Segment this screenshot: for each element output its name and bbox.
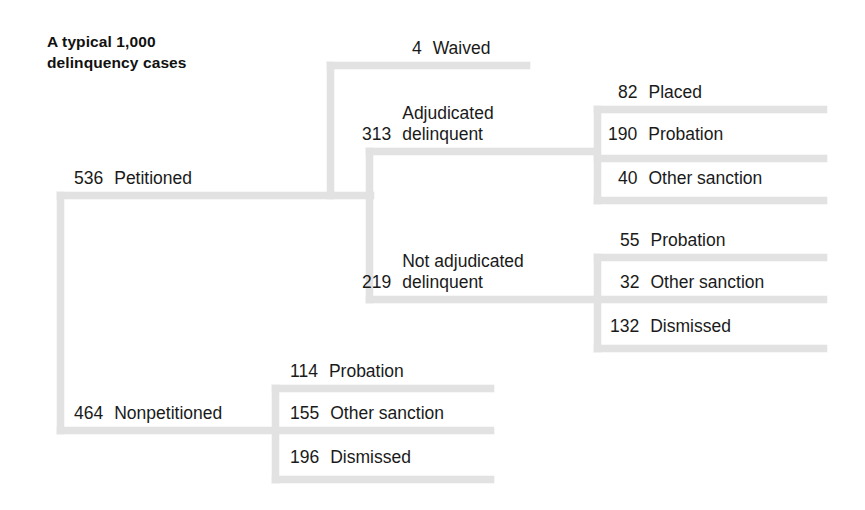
node-nonpetitioned-label: Nonpetitioned: [114, 403, 222, 424]
connector-non-other-underline: [272, 427, 494, 434]
connector-nadj-probation-underline: [594, 254, 827, 261]
connector-adjudicated-underline: [366, 148, 597, 155]
node-petitioned-value: 536: [74, 168, 103, 189]
node-non-probation-value: 114: [290, 361, 318, 382]
node-not-adjudicated-label: Not adjudicated delinquent: [402, 251, 524, 293]
node-nonpetitioned-value: 464: [74, 403, 103, 424]
node-adj-placed-value: 82: [618, 82, 637, 103]
node-non-dismissed-label: Dismissed: [330, 447, 411, 468]
connector-placed-underline: [594, 106, 827, 113]
delinquency-case-flow-diagram: A typical 1,000 delinquency cases 536 Pe…: [0, 0, 865, 510]
node-nadj-other-sanction: 32 Other sanction: [620, 272, 764, 293]
connector-non-probation-underline: [272, 385, 494, 392]
connector-adj-probation-underline: [594, 155, 827, 162]
node-not-adjudicated-value: 219: [362, 272, 391, 293]
node-nadj-other-label: Other sanction: [650, 272, 764, 293]
connector-trunk-vertical: [57, 192, 64, 434]
node-petitioned-label: Petitioned: [114, 168, 192, 189]
node-non-dismissed: 196 Dismissed: [290, 447, 411, 468]
node-non-probation-label: Probation: [329, 361, 404, 382]
connector-nadj-other-underline: [594, 296, 827, 303]
node-nadj-dismissed-label: Dismissed: [650, 316, 731, 337]
node-nadj-probation-value: 55: [620, 230, 639, 251]
node-petitioned: 536 Petitioned: [74, 168, 192, 189]
node-waived: 4 Waived: [412, 38, 490, 59]
connector-nonpetitioned-underline: [57, 427, 272, 434]
connector-waived-underline: [327, 62, 530, 69]
node-non-other-value: 155: [290, 403, 319, 424]
node-nadj-dismissed: 132 Dismissed: [610, 316, 731, 337]
connector-not-adjudicated-children-vertical: [594, 254, 601, 352]
node-non-other-label: Other sanction: [330, 403, 444, 424]
node-adj-other-sanction: 40 Other sanction: [618, 168, 762, 189]
connector-nonpetitioned-children-vertical: [272, 385, 279, 483]
connector-waived-vertical: [327, 62, 334, 199]
node-waived-value: 4: [412, 38, 422, 59]
node-adj-other-label: Other sanction: [648, 168, 762, 189]
node-adjudicated-delinquent: 313 Adjudicated delinquent: [362, 103, 494, 145]
connector-not-adjudicated-underline: [366, 296, 597, 303]
connector-non-dismissed-underline: [272, 476, 494, 483]
node-nadj-probation: 55 Probation: [620, 230, 725, 251]
node-nadj-probation-label: Probation: [650, 230, 725, 251]
node-adjudicated-label: Adjudicated delinquent: [402, 103, 493, 145]
connector-adj-other-underline: [594, 197, 827, 204]
node-waived-label: Waived: [433, 38, 491, 59]
node-adj-probation-value: 190: [608, 124, 637, 145]
node-adjudicated-value: 313: [362, 124, 391, 145]
node-not-adjudicated-delinquent: 219 Not adjudicated delinquent: [362, 251, 524, 293]
node-adj-other-value: 40: [618, 168, 637, 189]
node-nadj-dismissed-value: 132: [610, 316, 639, 337]
node-non-other-sanction: 155 Other sanction: [290, 403, 444, 424]
node-adj-probation-label: Probation: [648, 124, 723, 145]
connector-nadj-dismissed-underline: [594, 345, 827, 352]
node-nonpetitioned: 464 Nonpetitioned: [74, 403, 222, 424]
node-non-probation: 114 Probation: [290, 361, 404, 382]
node-nadj-other-value: 32: [620, 272, 639, 293]
diagram-title: A typical 1,000 delinquency cases: [47, 31, 187, 73]
node-adj-placed: 82 Placed: [618, 82, 702, 103]
node-adj-probation: 190 Probation: [608, 124, 723, 145]
node-adj-placed-label: Placed: [648, 82, 702, 103]
node-non-dismissed-value: 196: [290, 447, 319, 468]
